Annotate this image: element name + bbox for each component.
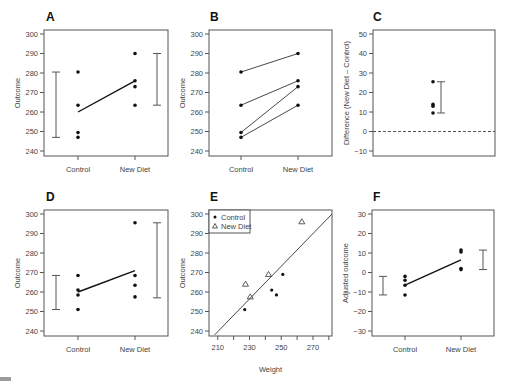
y-tick-label: 0 [363,127,367,136]
data-point [133,221,137,225]
plot-frame [44,30,168,156]
y-tick-label: 300 [25,30,38,39]
data-point [281,273,284,276]
y-tick-label: 280 [190,69,203,78]
triangle-marker [266,271,272,276]
plot-frame [373,30,495,156]
panel-a: A240250260270280290300OutcomeControlNew … [13,10,168,174]
data-point [76,103,80,107]
panel-c: C−1001020304050Difference (New Diet – Co… [342,10,495,156]
y-axis-label: Difference (New Diet – Control) [342,40,351,145]
y-axis-label: Outcome [13,258,22,288]
mean-line [405,260,461,285]
y-tick-label: −10 [354,147,367,156]
y-tick-label: 280 [190,249,203,258]
data-point [133,52,137,56]
panel-f: F−30−20−100102030Adjusted outcomeControl… [341,190,494,354]
y-tick-label: 300 [25,210,38,219]
x-tick-label: 210 [212,343,225,352]
range-bar [479,250,487,270]
data-point [76,136,80,140]
y-axis-label: Outcome [13,78,22,108]
data-point [239,103,243,107]
y-tick-label: −30 [353,327,366,336]
range-bar [52,275,60,309]
y-tick-label: 290 [190,49,203,58]
panel-letter: D [46,190,55,204]
y-tick-label: 10 [359,108,367,117]
panel-b: B240250260270280290300OutcomeControlNew … [178,10,332,174]
triangle-marker [243,281,249,286]
y-tick-label: 270 [190,88,203,97]
panel-letter: A [46,10,55,24]
x-tick-label: 250 [275,343,288,352]
y-tick-label: 240 [25,147,38,156]
data-point [403,293,407,297]
x-tick-label: Control [229,165,254,174]
legend-control-label: Control [221,213,246,222]
y-tick-label: 280 [25,69,38,78]
data-point [431,111,435,115]
x-axis-label: Weight [259,365,283,374]
y-axis-label: Outcome [178,258,187,288]
y-tick-label: 260 [25,288,38,297]
y-tick-label: 240 [190,147,203,156]
y-tick-label: 30 [359,69,367,78]
legend-new-diet-label: New Diet [221,222,252,231]
y-tick-label: 0 [362,268,366,277]
data-point [76,70,80,74]
data-point [76,274,80,278]
data-point [296,85,300,89]
x-tick-label: New Diet [120,165,151,174]
x-tick-label: Control [393,345,418,354]
x-tick-label: 230 [243,343,256,352]
data-point [403,275,407,279]
range-bar [153,223,161,298]
y-tick-label: 280 [25,249,38,258]
triangle-marker [299,219,305,224]
data-point [133,274,137,278]
data-point [76,293,80,297]
x-tick-label: New Diet [446,345,477,354]
y-tick-label: 250 [25,307,38,316]
data-point [239,70,243,74]
data-point [243,308,246,311]
y-tick-label: 290 [25,49,38,58]
y-tick-label: 270 [190,268,203,277]
y-tick-label: 250 [25,127,38,136]
x-tick-label: New Diet [120,345,151,354]
data-point [133,103,137,107]
y-tick-label: 260 [190,108,203,117]
y-tick-label: 270 [25,88,38,97]
y-tick-label: −10 [353,288,366,297]
legend: ControlNew Diet [209,210,252,233]
y-tick-label: 300 [190,210,203,219]
data-point [239,136,243,140]
x-tick-label: Control [66,345,91,354]
data-point [459,250,463,254]
data-point [403,279,407,283]
mean-line [78,81,135,112]
range-bar [153,54,161,106]
y-tick-label: 50 [359,30,367,39]
y-tick-label: 40 [359,49,367,58]
plot-frame [44,210,168,336]
y-tick-label: 270 [25,268,38,277]
y-axis-label: Outcome [178,78,187,108]
mean-line [78,271,135,292]
data-point [133,85,137,89]
y-tick-label: 20 [359,88,367,97]
x-tick-label: 270 [307,343,320,352]
range-bar [437,82,445,113]
y-tick-label: 10 [358,249,366,258]
y-tick-label: 240 [25,327,38,336]
legend-control-marker [214,216,217,219]
y-tick-label: 290 [190,229,203,238]
figure: A240250260270280290300OutcomeControlNew … [0,0,505,381]
panel-e: E240250260270280290300Outcome21023025027… [178,190,332,374]
panel-d: D240250260270280290300OutcomeControlNew … [13,190,168,354]
y-tick-label: 300 [190,30,203,39]
data-point [76,131,80,135]
y-tick-label: 250 [190,127,203,136]
data-point [275,293,278,296]
